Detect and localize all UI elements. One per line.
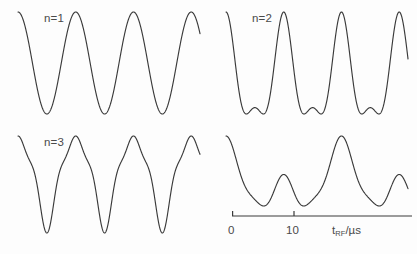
panel-n1-plot	[14, 8, 204, 118]
panel-n3-plot	[14, 132, 204, 237]
panel-n1: n=1	[14, 8, 204, 118]
curve-n1	[18, 12, 200, 114]
panel-n1-label: n=1	[44, 12, 64, 24]
axis-tick-label-0: 0	[228, 224, 234, 236]
axis-title-subscript: RF	[335, 229, 345, 238]
figure-root: n=1 n=2 n=3 0 10 tRF/µs	[0, 0, 417, 254]
panel-n4-plot	[222, 132, 412, 210]
panel-n2: n=2	[222, 8, 412, 118]
panel-n4	[222, 132, 412, 210]
curve-n2	[226, 12, 408, 114]
time-axis: 0 10 tRF/µs	[228, 210, 414, 252]
panel-n2-label: n=2	[252, 12, 272, 24]
axis-title: tRF/µs	[332, 224, 361, 236]
curve-n4	[226, 136, 408, 206]
axis-title-unit: /µs	[345, 224, 361, 236]
panel-n2-plot	[222, 8, 412, 118]
axis-graphic	[228, 210, 414, 226]
panel-n3-label: n=3	[44, 136, 64, 148]
axis-tick-label-10: 10	[286, 224, 299, 236]
curve-n3	[18, 136, 200, 233]
panel-n3: n=3	[14, 132, 204, 237]
